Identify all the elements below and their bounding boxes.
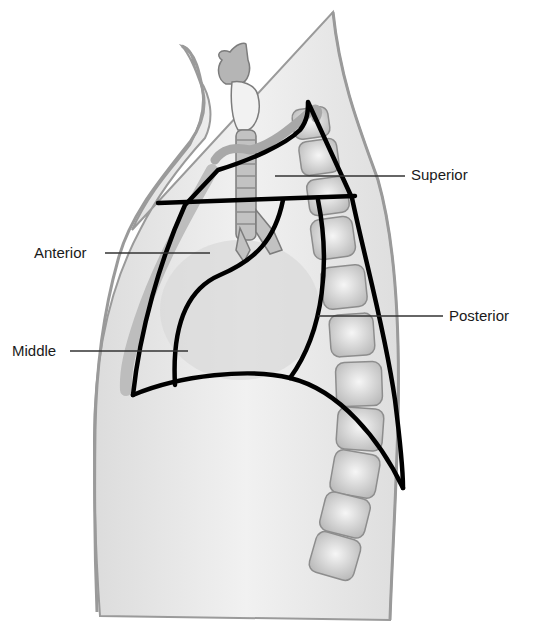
label-posterior: Posterior (449, 308, 509, 323)
label-anterior: Anterior (34, 245, 87, 260)
label-middle: Middle (12, 343, 56, 358)
label-superior: Superior (411, 167, 468, 182)
